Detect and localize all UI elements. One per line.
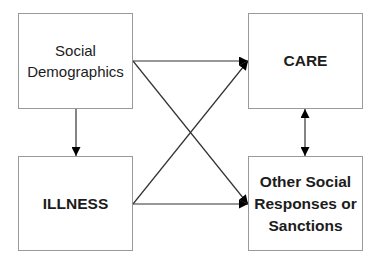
node-label: ILLNESS bbox=[43, 193, 108, 215]
node-label: Social Demographics bbox=[27, 40, 124, 82]
node-illness: ILLNESS bbox=[18, 156, 133, 251]
node-care: CARE bbox=[248, 13, 363, 109]
node-label: Other Social Responses or Sanctions bbox=[254, 171, 357, 237]
diagram-canvas: Social Demographics CARE ILLNESS Other S… bbox=[0, 0, 379, 264]
edge-illness-to-care bbox=[133, 61, 248, 204]
node-other-social-responses: Other Social Responses or Sanctions bbox=[248, 156, 363, 251]
edge-social-demographics-to-other-social-responses bbox=[133, 61, 248, 204]
node-social-demographics: Social Demographics bbox=[18, 13, 133, 109]
node-label: CARE bbox=[284, 50, 328, 72]
